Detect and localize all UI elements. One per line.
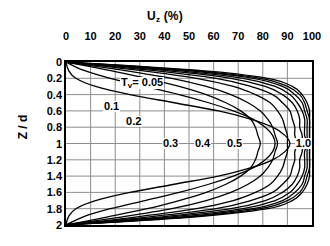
y-tick-0.2: 0.2 (22, 72, 62, 84)
curve-label-tv-0.4: 0.4 (194, 138, 211, 149)
curve-label-tv-0.05: Tv= 0.05 (120, 77, 164, 89)
tv-symbol: Tv= 0.05 (121, 76, 163, 88)
curve-label-tv-0.5: 0.5 (226, 138, 243, 149)
isochrone-curves-svg (66, 62, 312, 225)
x-tick-100: 100 (297, 30, 327, 42)
y-tick-1.4: 1.4 (22, 170, 62, 182)
curve-label-tv-0.2: 0.2 (125, 116, 142, 127)
chart-title-suffix: (%) (160, 9, 183, 23)
y-tick-1.8: 1.8 (22, 203, 62, 215)
y-axis-tick-labels: 00.20.40.60.811.21.41.61.82 (22, 0, 62, 246)
y-tick-1: 1 (22, 138, 62, 150)
consolidation-isochrone-chart: Uz (%) 0102030405060708090100 Z / d 00.2… (0, 0, 330, 246)
y-tick-2: 2 (22, 219, 62, 231)
curve-label-tv-1: 1.0 (295, 138, 312, 149)
y-tick-1.6: 1.6 (22, 186, 62, 198)
plot-area (64, 60, 314, 227)
chart-title-main: U (147, 9, 156, 23)
chart-title-subscript: z (156, 15, 160, 24)
y-tick-1.2: 1.2 (22, 154, 62, 166)
y-tick-0.4: 0.4 (22, 89, 62, 101)
curve-label-tv-0.3: 0.3 (162, 138, 179, 149)
y-tick-0: 0 (22, 56, 62, 68)
y-tick-0.6: 0.6 (22, 105, 62, 117)
y-tick-0.8: 0.8 (22, 121, 62, 133)
curve-label-tv-0.1: 0.1 (103, 101, 120, 112)
